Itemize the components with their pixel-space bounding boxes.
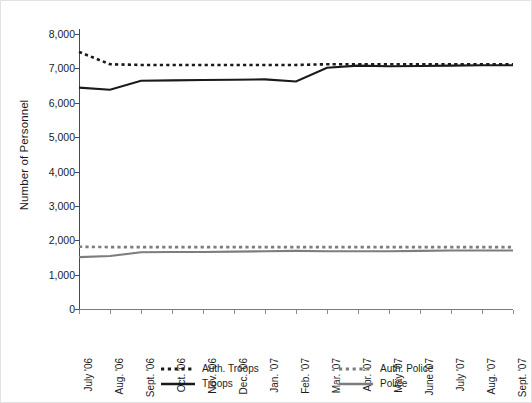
series-line-troops — [79, 65, 513, 89]
y-axis-tick-label: 0 — [29, 303, 75, 315]
legend-item[interactable]: Auth. Troops — [161, 361, 339, 376]
x-axis-tick-mark — [420, 310, 421, 314]
x-axis-tick-mark — [327, 310, 328, 314]
y-axis-tick-label: 4,000 — [29, 166, 75, 178]
x-axis-tick-label: Sept. '06 — [145, 358, 156, 403]
solid-black-line-icon — [161, 379, 195, 389]
y-axis-tick-label: 1,000 — [29, 269, 75, 281]
x-axis-tick-label: Aug. '06 — [114, 358, 125, 403]
x-axis-tick-mark — [358, 310, 359, 314]
x-axis-tick-mark — [234, 310, 235, 314]
x-axis-tick-mark — [79, 310, 80, 314]
y-axis-line — [79, 29, 80, 310]
y-axis-tick-label: 6,000 — [29, 97, 75, 109]
legend-item[interactable]: Police — [339, 376, 514, 391]
y-axis-tick-label: 5,000 — [29, 131, 75, 143]
legend-item[interactable]: Auth. Police — [339, 361, 514, 376]
x-axis-tick-mark — [110, 310, 111, 314]
x-axis-tick-labels: July '06Aug. '06Sept. '06Oct. '06Nov. '0… — [79, 310, 513, 360]
legend-item-label: Police — [380, 378, 407, 389]
x-axis-tick-mark — [172, 310, 173, 314]
series-line-auth-troops — [79, 52, 513, 65]
x-axis-tick-label: Sept. '07 — [517, 358, 528, 403]
y-axis-tick-label: 3,000 — [29, 200, 75, 212]
legend-item[interactable]: Troops — [161, 376, 339, 391]
series-line-police — [79, 251, 513, 258]
legend-item-label: Troops — [202, 378, 233, 389]
x-axis-tick-mark — [513, 310, 514, 314]
x-axis-tick-mark — [141, 310, 142, 314]
dotted-black-line-icon — [161, 364, 195, 374]
dotted-gray-line-icon — [339, 364, 373, 374]
legend-item-label: Auth. Police — [380, 363, 433, 374]
x-axis-tick-mark — [203, 310, 204, 314]
solid-gray-line-icon — [339, 379, 373, 389]
y-axis-tick-label: 7,000 — [29, 62, 75, 74]
y-axis-tick-label: 2,000 — [29, 234, 75, 246]
chart-page: Number of Personnel 01,0002,0003,0004,00… — [0, 0, 532, 403]
x-axis-tick-mark — [265, 310, 266, 314]
y-axis-tick-labels: 01,0002,0003,0004,0005,0006,0007,0008,00… — [25, 1, 75, 403]
x-axis-tick-mark — [482, 310, 483, 314]
x-axis-tick-label: July '06 — [83, 358, 94, 403]
x-axis-tick-mark — [451, 310, 452, 314]
legend-item-label: Auth. Troops — [202, 363, 259, 374]
chart-legend: Auth. TroopsAuth. PoliceTroopsPolice — [161, 361, 511, 391]
x-axis-tick-mark — [389, 310, 390, 314]
y-axis-tick-label: 8,000 — [29, 28, 75, 40]
x-axis-tick-mark — [296, 310, 297, 314]
